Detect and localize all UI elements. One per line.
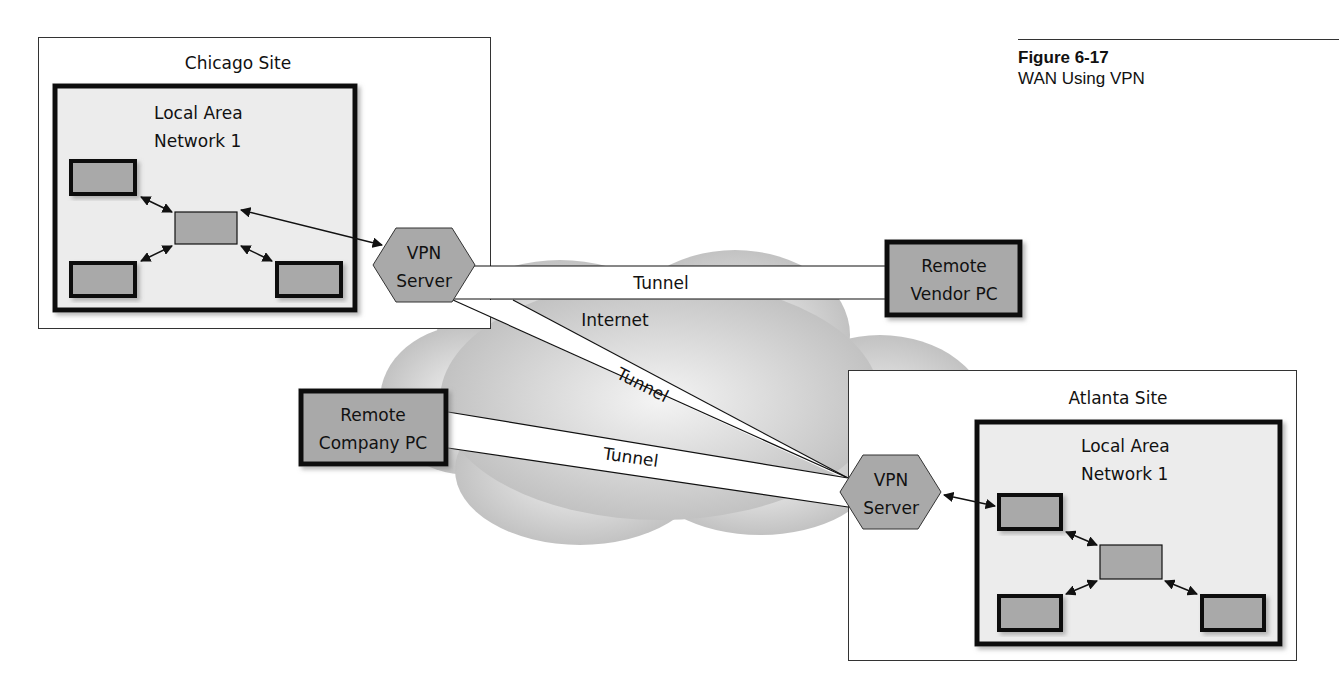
atlanta-device-bottom-right <box>1202 596 1264 630</box>
remote-vendor-pc: Remote Vendor PC <box>887 242 1020 315</box>
atlanta-site-title: Atlanta Site <box>1068 388 1167 408</box>
wan-vpn-diagram: Chicago Site Local Area Network 1 Tunnel <box>0 0 1339 696</box>
chicago-lan-label-line2: Network 1 <box>154 131 241 151</box>
chicago-vpn-label-line1: VPN <box>407 243 442 263</box>
chicago-lan: Local Area Network 1 <box>55 86 355 310</box>
atlanta-device-top-left <box>999 495 1061 529</box>
remote-company-pc-line2: Company PC <box>319 433 427 453</box>
internet-label: Internet <box>581 310 649 330</box>
chicago-device-bottom-right <box>277 263 341 296</box>
remote-vendor-pc-line2: Vendor PC <box>910 284 997 304</box>
remote-vendor-pc-line1: Remote <box>921 256 987 276</box>
chicago-site-title: Chicago Site <box>185 53 291 73</box>
remote-company-pc-line1: Remote <box>340 405 406 425</box>
remote-company-pc: Remote Company PC <box>301 391 446 464</box>
atlanta-switch <box>1100 545 1162 579</box>
atlanta-lan: Local Area Network 1 <box>977 422 1280 644</box>
atlanta-device-bottom-left <box>999 596 1061 630</box>
chicago-device-top-left <box>71 161 135 194</box>
atlanta-vpn-label-line1: VPN <box>874 470 909 490</box>
chicago-vpn-label-line2: Server <box>396 271 452 291</box>
atlanta-lan-label-line2: Network 1 <box>1081 464 1168 484</box>
chicago-switch <box>175 212 237 244</box>
tunnel-label-vendor: Tunnel <box>632 273 688 293</box>
atlanta-vpn-label-line2: Server <box>863 498 919 518</box>
chicago-lan-label-line1: Local Area <box>154 103 243 123</box>
chicago-device-bottom-left <box>71 263 135 296</box>
atlanta-lan-label-line1: Local Area <box>1081 436 1170 456</box>
